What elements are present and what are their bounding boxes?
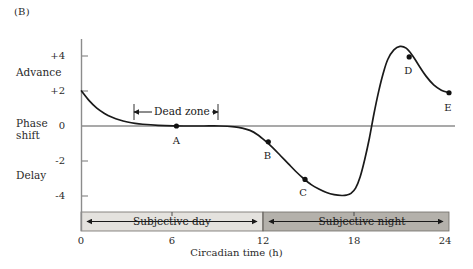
point-label-b: B (260, 150, 274, 161)
phase-response-curve-figure: (B) Advance Phaseshift Delay +4 +2 0 -2 … (0, 0, 473, 269)
data-point-c (302, 177, 307, 182)
data-point-b (266, 139, 271, 144)
point-label-a: A (169, 135, 183, 146)
dead-zone-label: Dead zone (152, 105, 212, 117)
point-label-d: D (401, 65, 415, 76)
subjective-day-label: Subjective day (132, 215, 212, 227)
subjective-night-label: Subjective night (316, 215, 408, 227)
point-label-c: C (296, 187, 310, 198)
data-point-d (407, 54, 412, 59)
data-point-e (446, 90, 451, 95)
data-point-a (174, 123, 179, 128)
point-label-e: E (441, 102, 455, 113)
phase-response-curve (82, 46, 450, 195)
plot-svg (0, 0, 473, 269)
